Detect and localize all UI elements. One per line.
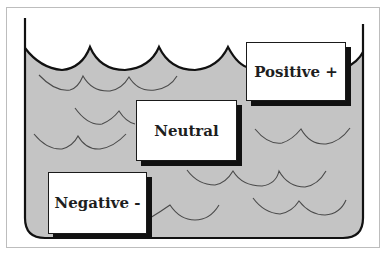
label-negative: Negative - bbox=[48, 172, 147, 234]
label-neutral-text: Neutral bbox=[154, 122, 218, 140]
label-neutral: Neutral bbox=[136, 100, 237, 161]
label-positive-text: Positive + bbox=[254, 63, 338, 81]
label-positive: Positive + bbox=[246, 42, 346, 101]
label-negative-text: Negative - bbox=[55, 194, 141, 212]
